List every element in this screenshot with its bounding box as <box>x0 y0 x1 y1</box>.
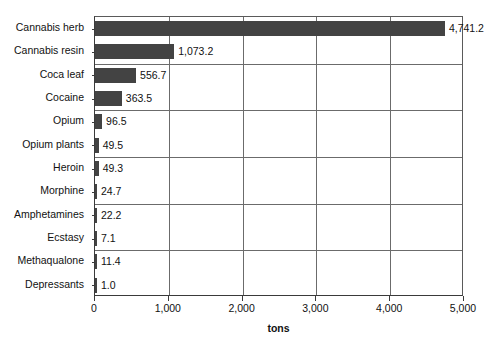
y-axis-tick <box>92 99 95 100</box>
bar-value-label: 22.2 <box>101 207 121 223</box>
bar[interactable] <box>95 68 136 83</box>
category-label: Ecstasy <box>0 226 89 249</box>
bar-value-label: 363.5 <box>126 90 152 106</box>
bar-value-label: 1,073.2 <box>178 43 213 59</box>
top-axis-tick <box>169 17 170 21</box>
category-axis-labels: Cannabis herbCannabis resinCoca leafCoca… <box>0 16 89 296</box>
x-axis-tick-label: 5,000 <box>450 301 476 315</box>
y-axis-tick <box>92 145 95 146</box>
bar-row: 4,741.2 <box>95 17 462 40</box>
bar-value-label: 96.5 <box>106 113 126 129</box>
bar-value-label: 4,741.2 <box>449 20 484 36</box>
x-axis-tick-label: 1,000 <box>155 301 181 315</box>
bar-row: 363.5 <box>95 87 462 110</box>
bar[interactable] <box>95 138 99 153</box>
category-label: Cannabis resin <box>0 39 89 62</box>
category-label: Coca leaf <box>0 63 89 86</box>
bar[interactable] <box>95 114 102 129</box>
bar-value-label: 7.1 <box>101 230 116 246</box>
bar-value-label: 11.4 <box>101 253 121 269</box>
bar-value-label: 49.3 <box>103 160 123 176</box>
bar-row: 7.1 <box>95 227 462 250</box>
bar[interactable] <box>95 208 97 223</box>
bar[interactable] <box>95 231 97 246</box>
y-axis-tick <box>92 239 95 240</box>
bar-row: 49.5 <box>95 134 462 157</box>
bar-value-label: 49.5 <box>103 137 123 153</box>
bar[interactable] <box>95 254 97 269</box>
y-axis-tick <box>92 169 95 170</box>
x-axis-tick-label: 0 <box>91 301 97 315</box>
category-label: Cocaine <box>0 86 89 109</box>
category-label: Morphine <box>0 179 89 202</box>
bar-chart-figure: Cannabis herbCannabis resinCoca leafCoca… <box>0 0 494 346</box>
bar-value-label: 24.7 <box>101 183 121 199</box>
bar[interactable] <box>95 184 97 199</box>
bar-row: 96.5 <box>95 110 462 133</box>
x-axis-tick-labels: 01,0002,0003,0004,0005,000 <box>0 301 494 317</box>
category-label: Amphetamines <box>0 203 89 226</box>
bar-value-label: 556.7 <box>140 67 166 83</box>
bar-row: 22.2 <box>95 204 462 227</box>
bar-row: 556.7 <box>95 64 462 87</box>
y-axis-tick <box>92 29 95 30</box>
top-axis-tick <box>243 17 244 21</box>
bar[interactable] <box>95 21 445 36</box>
x-axis-tick-label: 2,000 <box>228 301 254 315</box>
x-axis-tick-label: 3,000 <box>302 301 328 315</box>
bar-row: 1.0 <box>95 274 462 297</box>
y-axis-tick <box>92 215 95 216</box>
bar-row: 1,073.2 <box>95 40 462 63</box>
top-axis-tick <box>316 17 317 21</box>
bar[interactable] <box>95 161 99 176</box>
bar-row: 24.7 <box>95 180 462 203</box>
bar-row: 11.4 <box>95 250 462 273</box>
top-axis-tick <box>390 17 391 21</box>
category-label: Heroin <box>0 156 89 179</box>
bar[interactable] <box>95 44 174 59</box>
category-label: Depressants <box>0 273 89 296</box>
category-label: Methaqualone <box>0 249 89 272</box>
y-axis-tick <box>92 52 95 53</box>
x-axis-title: tons <box>94 322 463 334</box>
bar[interactable] <box>95 91 122 106</box>
category-label: Opium <box>0 109 89 132</box>
y-axis-tick <box>92 262 95 263</box>
y-axis-tick <box>92 122 95 123</box>
category-label: Cannabis herb <box>0 16 89 39</box>
bar-value-label: 1.0 <box>101 277 116 293</box>
plot-area: 4,741.21,073.2556.7363.596.549.549.324.7… <box>94 16 463 296</box>
y-axis-tick <box>92 285 95 286</box>
bar[interactable] <box>95 278 97 293</box>
y-axis-tick <box>92 75 95 76</box>
category-label: Opium plants <box>0 133 89 156</box>
bar-row: 49.3 <box>95 157 462 180</box>
x-axis-tick-label: 4,000 <box>376 301 402 315</box>
bar-rows: 4,741.21,073.2556.7363.596.549.549.324.7… <box>95 17 462 295</box>
y-axis-tick <box>92 192 95 193</box>
